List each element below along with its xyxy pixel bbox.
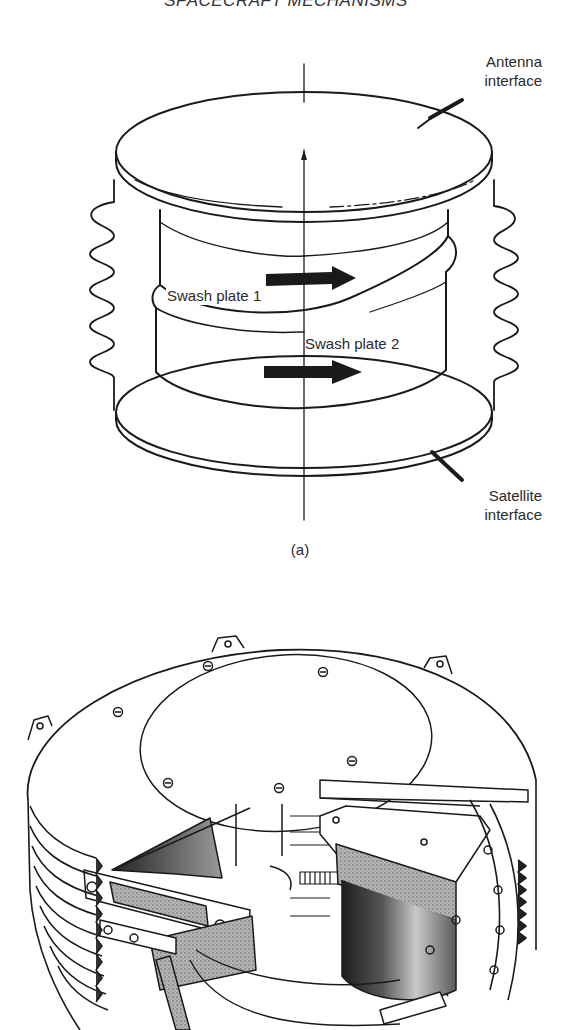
antenna-interface-label-line1: Antenna bbox=[438, 52, 542, 71]
left-bellows bbox=[90, 180, 114, 410]
swash-plate-2-label: Swash plate 2 bbox=[305, 334, 399, 353]
mechanism-cutaway-drawing bbox=[0, 620, 572, 1030]
antenna-interface-label-line2: interface bbox=[438, 71, 542, 90]
satellite-interface-label-line1: Satellite bbox=[422, 486, 542, 505]
cover-screws bbox=[114, 662, 357, 793]
figure-a-sublabel: (a) bbox=[270, 540, 330, 559]
satellite-interface-label: Satellite interface bbox=[422, 486, 542, 524]
mounting-tab bbox=[28, 716, 52, 740]
swash-plate-2-arrow-icon bbox=[264, 360, 362, 384]
swash-plate-1-arrow-icon bbox=[266, 266, 356, 290]
swash-plate-schematic-drawing bbox=[0, 0, 572, 620]
rotation-arrows bbox=[264, 266, 362, 384]
figure-b-hardware-cutaway bbox=[0, 620, 572, 1030]
housing-top-rim bbox=[28, 650, 536, 800]
gear-teeth bbox=[518, 860, 526, 944]
antenna-interface-label: Antenna interface bbox=[438, 52, 542, 90]
right-bellows bbox=[494, 180, 518, 410]
mounting-tab bbox=[212, 636, 244, 652]
figure-a-schematic: Antenna interface Swash plate 1 Swash pl… bbox=[0, 0, 572, 620]
satellite-interface-label-line2: interface bbox=[422, 505, 542, 524]
swash-plate-1-label: Swash plate 1 bbox=[166, 286, 262, 305]
